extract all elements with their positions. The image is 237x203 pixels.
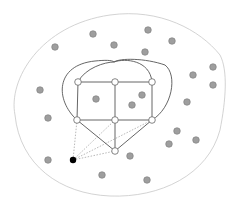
graph-edge bbox=[115, 120, 152, 151]
white-node bbox=[112, 79, 119, 86]
gray-node bbox=[166, 141, 173, 148]
curved-edges bbox=[62, 59, 172, 120]
gray-node bbox=[37, 87, 44, 94]
gray-nodes bbox=[37, 27, 217, 184]
white-node bbox=[74, 117, 81, 124]
white-nodes bbox=[74, 79, 156, 155]
curved-edge bbox=[78, 59, 172, 120]
dotted-edge bbox=[73, 120, 77, 160]
gray-node bbox=[90, 31, 97, 38]
gray-node bbox=[184, 99, 191, 106]
white-node bbox=[112, 148, 119, 155]
gray-node bbox=[169, 38, 176, 45]
white-node bbox=[149, 117, 156, 124]
gray-node bbox=[45, 157, 52, 164]
graph-edge bbox=[77, 82, 78, 120]
white-node bbox=[75, 79, 82, 86]
gray-node bbox=[193, 137, 200, 144]
white-node bbox=[112, 117, 119, 124]
black-node bbox=[70, 157, 76, 163]
white-node bbox=[149, 79, 156, 86]
graph-edge bbox=[77, 120, 115, 151]
black-node-dot bbox=[70, 157, 76, 163]
gray-node bbox=[144, 177, 151, 184]
gray-node bbox=[139, 92, 146, 99]
gray-node bbox=[111, 42, 118, 49]
gray-node bbox=[99, 172, 106, 179]
dotted-edge bbox=[73, 120, 115, 160]
gray-node bbox=[174, 128, 181, 135]
gray-node bbox=[210, 82, 217, 89]
dotted-edge bbox=[73, 151, 115, 160]
gray-node bbox=[45, 115, 52, 122]
graph-diagram bbox=[0, 0, 237, 203]
gray-node bbox=[190, 72, 197, 79]
region-boundary bbox=[14, 14, 225, 196]
curved-edge bbox=[62, 60, 152, 120]
gray-node bbox=[129, 102, 136, 109]
gray-node bbox=[127, 153, 134, 160]
gray-node bbox=[142, 49, 149, 56]
gray-node bbox=[145, 27, 152, 34]
gray-node bbox=[52, 44, 59, 51]
gray-node bbox=[93, 96, 100, 103]
gray-node bbox=[210, 64, 217, 71]
